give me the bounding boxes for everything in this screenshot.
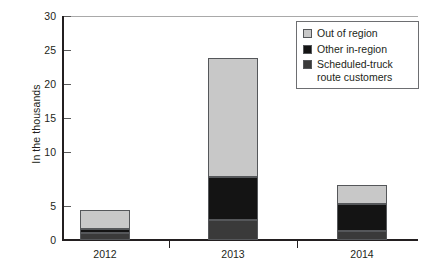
- y-tick-label-15: 15: [30, 113, 56, 123]
- legend-item-other-in-region[interactable]: Other in-region: [303, 43, 412, 56]
- bar-segment: [80, 210, 130, 229]
- bar-group-2012: [80, 0, 130, 267]
- legend-label-other-in-region: Other in-region: [317, 43, 387, 56]
- y-tick-label-30-wrap: 30: [28, 11, 56, 21]
- y-tick-10: [64, 152, 71, 153]
- y-tick-label-0-wrap: 0: [28, 235, 56, 245]
- y-tick-label-20: 20: [30, 79, 56, 89]
- y-tick-20: [64, 84, 71, 85]
- y-tick-label-30: 30: [30, 11, 56, 21]
- x-axis-label-2013: 2013: [193, 248, 273, 260]
- x-axis-label-2012: 2012: [65, 248, 145, 260]
- legend-swatch-icon-scheduled-truck: [303, 60, 312, 69]
- y-tick-label-25-wrap: 25: [28, 45, 56, 55]
- bar-segment: [208, 177, 258, 220]
- legend-label-scheduled-truck: Scheduled-truck route customers: [317, 58, 412, 83]
- legend-item-out-of-region[interactable]: Out of region: [303, 27, 412, 40]
- y-tick-label-10: 10: [30, 147, 56, 157]
- x-axis-separator-1: [169, 241, 170, 248]
- bar-segment: [337, 185, 387, 204]
- y-tick-15: [64, 118, 71, 119]
- bar-segment: [208, 58, 258, 177]
- y-axis-title: In the thousands: [30, 44, 42, 204]
- legend-label-out-of-region: Out of region: [317, 27, 378, 40]
- y-tick-25: [64, 50, 71, 51]
- chart-legend: Out of region Other in-region Scheduled-…: [296, 21, 419, 89]
- y-tick-label-25: 25: [30, 45, 56, 55]
- bar-segment: [337, 231, 387, 240]
- y-tick-30: [64, 16, 71, 17]
- y-tick-label-5-wrap: 5: [28, 201, 56, 211]
- x-axis-label-2014: 2014: [322, 248, 402, 260]
- y-tick-label-20-wrap: 20: [28, 79, 56, 89]
- legend-swatch-icon-out-of-region: [303, 29, 312, 38]
- bar-group-2013: [208, 0, 258, 267]
- y-tick-label-0: 0: [30, 235, 56, 245]
- bar-segment: [80, 229, 130, 233]
- bar-segment: [337, 204, 387, 231]
- stacked-bar-chart: In the thousands 30 25 20 15 10 5 0 2012…: [0, 0, 429, 267]
- x-axis-separator-2: [297, 241, 298, 248]
- bar-segment: [208, 220, 258, 240]
- y-tick-5: [64, 206, 71, 207]
- legend-item-scheduled-truck[interactable]: Scheduled-truck route customers: [303, 58, 412, 83]
- bar-segment: [80, 233, 130, 240]
- legend-swatch-icon-other-in-region: [303, 45, 312, 54]
- y-tick-label-15-wrap: 15: [28, 113, 56, 123]
- y-tick-label-5: 5: [30, 201, 56, 211]
- y-tick-label-10-wrap: 10: [28, 147, 56, 157]
